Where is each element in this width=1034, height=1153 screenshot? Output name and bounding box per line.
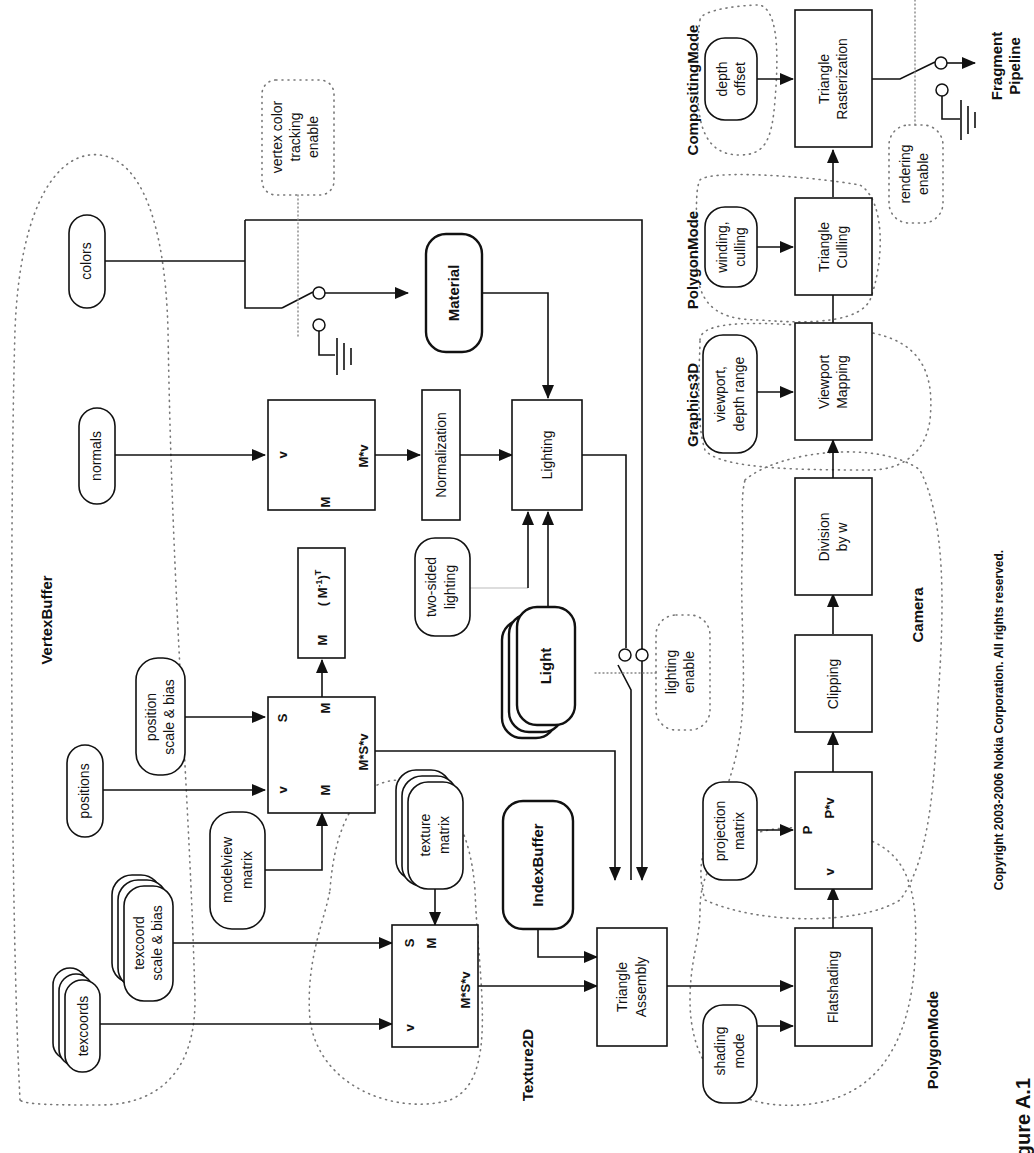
input-colors: colors	[69, 215, 105, 308]
svg-text:M: M	[318, 497, 333, 508]
svg-text:normals: normals	[88, 431, 104, 481]
svg-text:position: position	[143, 693, 159, 741]
svg-text:M: M	[318, 703, 333, 714]
stage-inverse-transpose: M ( M-1)T	[298, 548, 345, 658]
svg-text:shading: shading	[712, 1026, 728, 1075]
svg-text:matrix: matrix	[436, 816, 452, 854]
input-two-sided-lighting: two-sided lighting	[415, 538, 470, 636]
rendering-switch-terminal-on	[935, 57, 947, 69]
svg-text:Material: Material	[445, 265, 462, 322]
svg-text:lighting: lighting	[442, 565, 458, 609]
svg-text:texture: texture	[417, 813, 433, 856]
stage-texture-transform: v S M M*S*v	[392, 925, 478, 1047]
stage-triangle-culling: Triangle Culling	[795, 198, 872, 295]
svg-text:enable: enable	[305, 116, 321, 158]
svg-text:Mapping: Mapping	[834, 355, 850, 409]
input-positions: positions	[67, 745, 103, 837]
svg-text:M: M	[424, 938, 439, 949]
svg-text:depth range: depth range	[731, 356, 747, 431]
input-viewport-depth-range: viewport, depth range	[703, 335, 757, 453]
input-winding-culling: winding, culling	[705, 207, 757, 287]
svg-text:vertex color: vertex color	[269, 100, 285, 173]
svg-text:P*v: P*v	[822, 797, 837, 819]
svg-text:mode: mode	[731, 1033, 747, 1068]
svg-text:projection: projection	[712, 801, 728, 862]
svg-text:Triangle: Triangle	[614, 962, 630, 1012]
svg-text:Pipeline: Pipeline	[1006, 37, 1023, 95]
group-label-camera: Camera	[909, 587, 926, 643]
pipeline-diagram: VertexBuffer Texture2D PolygonMode Camer…	[0, 0, 1034, 1153]
svg-text:modelview: modelview	[219, 836, 235, 903]
svg-text:Flatshading: Flatshading	[825, 951, 841, 1023]
svg-text:colors: colors	[78, 242, 94, 279]
input-modelview-matrix: modelview matrix	[210, 812, 265, 929]
svg-text:matrix: matrix	[731, 812, 747, 850]
svg-text:S: S	[402, 938, 417, 947]
svg-text:texcoords: texcoords	[75, 996, 91, 1057]
svg-text:depth: depth	[714, 61, 730, 96]
svg-text:by w: by w	[834, 522, 850, 552]
stage-normalization: Normalization	[422, 390, 460, 520]
svg-text:enable: enable	[915, 153, 931, 195]
lighting-switch-terminal-lit	[619, 649, 631, 661]
svg-text:Rasterization: Rasterization	[834, 38, 850, 120]
stage-clipping: Clipping	[795, 635, 872, 732]
stage-projection: v P P*v	[795, 772, 872, 889]
input-texture-matrix: texture matrix	[396, 770, 463, 889]
svg-text:M*v: M*v	[356, 444, 371, 468]
group-label-polygonmode-culling: PolygonMode	[684, 211, 701, 309]
svg-text:Viewport: Viewport	[816, 355, 832, 409]
svg-text:IndexBuffer: IndexBuffer	[529, 823, 546, 907]
svg-text:M*S*v: M*S*v	[458, 971, 473, 1009]
lighting-switch-terminal-unlit	[636, 649, 648, 661]
group-label-texture2d: Texture2D	[519, 1029, 536, 1101]
vertex-color-switch-terminal-on	[313, 287, 325, 299]
group-label-compositingmode: CompositingMode	[684, 25, 701, 156]
group-label-graphics3d: Graphics3D	[684, 363, 701, 447]
svg-text:v: v	[822, 868, 837, 876]
svg-text:two-sided: two-sided	[423, 557, 439, 617]
svg-text:scale & bias: scale & bias	[161, 679, 177, 754]
stage-viewport-mapping: Viewport Mapping	[795, 323, 872, 440]
stage-normal-transform: v M M*v	[268, 400, 375, 510]
switch-label-rendering-enable: rendering enable	[889, 125, 943, 223]
svg-text:Division: Division	[816, 512, 832, 561]
svg-text:Triangle: Triangle	[816, 54, 832, 104]
svg-text:S: S	[275, 713, 290, 722]
switch-label-lighting-enable: lighting enable	[656, 615, 710, 730]
output-fragment-pipeline: Fragment Pipeline	[988, 32, 1023, 100]
input-material: Material	[426, 234, 482, 352]
svg-text:Light: Light	[537, 648, 554, 685]
input-projection-matrix: projection matrix	[703, 782, 757, 880]
svg-text:Assembly: Assembly	[633, 957, 649, 1018]
input-texcoords: texcoords	[53, 968, 100, 1072]
group-label-polygonmode-shading: PolygonMode	[924, 991, 941, 1089]
svg-text:Normalization: Normalization	[433, 412, 449, 498]
svg-text:M*S*v: M*S*v	[356, 733, 371, 771]
stage-position-transform: v M S M M*S*v	[268, 697, 375, 813]
svg-text:positions: positions	[76, 763, 92, 818]
svg-text:Culling: Culling	[834, 226, 850, 269]
svg-text:winding,: winding,	[714, 221, 730, 273]
svg-text:enable: enable	[681, 651, 697, 693]
stage-lighting: Lighting	[512, 400, 582, 510]
svg-text:v: v	[275, 451, 290, 459]
input-indexbuffer: IndexBuffer	[503, 801, 573, 929]
copyright-notice: Copyright 2003-2006 Nokia Corporation. A…	[992, 550, 1006, 890]
input-texcoord-scale-bias: texcoord scale & bias	[112, 875, 173, 1001]
svg-text:texcoord: texcoord	[131, 916, 147, 970]
svg-text:P: P	[800, 825, 815, 834]
svg-text:M: M	[315, 635, 330, 646]
stage-triangle-rasterization: Triangle Rasterization	[795, 10, 872, 147]
rendering-switch-terminal-off	[936, 84, 948, 96]
svg-text:scale & bias: scale & bias	[149, 905, 165, 980]
svg-text:tracking: tracking	[287, 112, 303, 161]
svg-text:viewport,: viewport,	[712, 366, 728, 422]
input-light: Light	[502, 607, 575, 738]
svg-text:culling: culling	[732, 227, 748, 267]
figure-caption: Figure A.1	[1012, 1078, 1034, 1153]
vertex-color-switch-terminal-ground	[313, 319, 325, 331]
svg-text:rendering: rendering	[897, 144, 913, 203]
svg-text:offset: offset	[732, 62, 748, 96]
input-depth-offset: depth offset	[705, 38, 757, 120]
